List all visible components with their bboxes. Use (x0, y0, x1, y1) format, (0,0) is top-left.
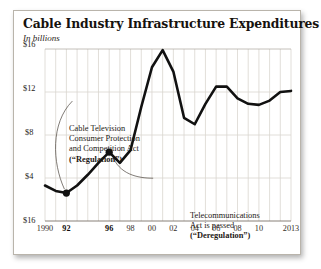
annotation-regulation-line-2: Consumer Protection (69, 134, 140, 144)
chart-card: Cable Industry Infrastructure Expenditur… (13, 10, 301, 255)
line-chart-svg (23, 45, 293, 233)
x-tick-2002: 02 (169, 224, 177, 233)
x-tick-2013: 2013 (283, 224, 299, 233)
x-tick-1996: 96 (105, 224, 113, 233)
annotation-regulation: Cable Television Consumer Protection and… (69, 124, 140, 165)
annotation-deregulation: Telecommunications Act is passed (“Dereg… (190, 211, 260, 242)
y-tick-12: $12 (23, 84, 35, 93)
annotation-regulation-emphasis: (“Regulation”) (69, 155, 122, 164)
marker-regulation (63, 189, 70, 196)
y-tick-baseline: $16 (23, 216, 35, 225)
y-tick-8: $8 (25, 128, 33, 137)
plot-area: $16 $12 $8 $4 $16 Cable Television Consu… (23, 45, 293, 233)
x-tick-2000: 00 (148, 224, 156, 233)
annotation-regulation-line-3: and Competition Act (69, 144, 140, 154)
annotation-deregulation-line-1: Telecommunications (190, 211, 260, 221)
x-tick-2008: 08 (233, 224, 241, 233)
x-tick-1998: 98 (126, 224, 134, 233)
y-tick-16-top: $16 (23, 40, 35, 49)
x-tick-2006: 06 (212, 224, 220, 233)
data-series-line (45, 50, 291, 193)
x-tick-2010: 10 (255, 224, 263, 233)
x-tick-1990: 1990 (37, 224, 53, 233)
y-tick-4: $4 (25, 172, 33, 181)
chart-title: Cable Industry Infrastructure Expenditur… (23, 16, 319, 31)
x-tick-1992: 92 (62, 224, 70, 233)
annotation-regulation-line-1: Cable Television (69, 124, 140, 134)
x-tick-2004: 04 (191, 224, 199, 233)
annotation-deregulation-line-2: Act is passed (190, 221, 260, 231)
